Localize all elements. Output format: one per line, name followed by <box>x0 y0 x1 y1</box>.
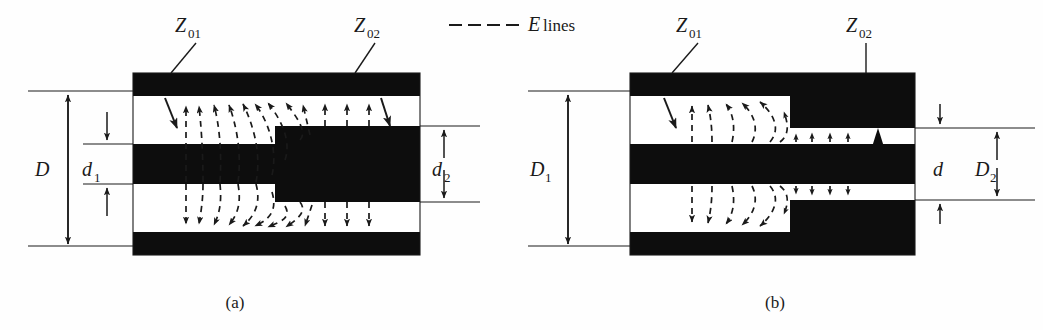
coaxial-step-junction-figure: E lines <box>0 0 1043 330</box>
legend-label: lines <box>543 16 575 35</box>
panel-b-z01-subscript: 01 <box>689 26 702 41</box>
panel-b-D1-subscript: 1 <box>545 170 552 185</box>
panel-a-z02-label: Z <box>354 14 366 36</box>
panel-a-caption: (a) <box>226 293 245 312</box>
panel-a-d2-label: d <box>432 158 443 180</box>
panel-b-D1-label: D <box>529 158 545 180</box>
panel-a-d2-subscript: 2 <box>444 170 451 185</box>
panel-a-d1-subscript: 1 <box>94 170 101 185</box>
panel-b-D2-label: D <box>974 158 990 180</box>
panel-b-d-label: d <box>933 158 944 180</box>
panel-a-z01-subscript: 01 <box>188 26 201 41</box>
panel-a-z01-label: Z <box>175 14 187 36</box>
panel-b-z02-subscript: 02 <box>859 26 872 41</box>
panel-a-d1-label: d <box>82 158 93 180</box>
panel-a-D-label: D <box>34 158 50 180</box>
panel-a-z02-subscript: 02 <box>367 26 380 41</box>
panel-b-z02-label: Z <box>846 14 858 36</box>
panel-b-D2-subscript: 2 <box>990 170 997 185</box>
panel-b-z01-label: Z <box>676 14 688 36</box>
panel-a-outer-conductor-top <box>133 73 420 96</box>
legend-symbol-e: E <box>527 13 540 35</box>
panel-b-caption: (b) <box>765 293 785 312</box>
panel-a-outer-conductor-bottom <box>133 232 420 255</box>
